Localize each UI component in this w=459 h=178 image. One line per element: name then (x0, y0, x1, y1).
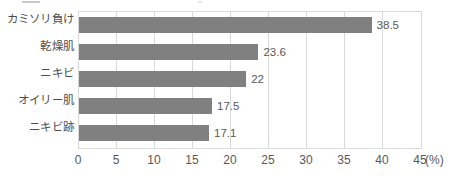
x-tick-label: 10 (147, 152, 160, 168)
bar[interactable] (79, 98, 212, 114)
category-label: ニキビ跡 (0, 119, 74, 135)
x-tick-label: 40 (375, 152, 388, 168)
bar[interactable] (79, 44, 258, 60)
x-tick-label: 20 (223, 152, 236, 168)
top-edge-artifact-secondary (198, 1, 202, 3)
plot-area: 38.5 23.6 22 17.5 17.1 (78, 11, 422, 149)
bar[interactable] (79, 17, 372, 33)
category-label: 乾燥肌 (0, 38, 74, 54)
bar-value-label: 17.5 (212, 98, 239, 114)
x-tick-label: 30 (299, 152, 312, 168)
x-axis-unit-label: (%) (425, 152, 444, 168)
x-tick-label: 5 (113, 152, 120, 168)
bar-value-label: 17.1 (209, 125, 236, 141)
category-label: ニキビ (0, 65, 74, 81)
bar-value-label: 38.5 (372, 17, 399, 33)
bar-value-label: 23.6 (258, 44, 285, 60)
x-tick-label: 35 (337, 152, 350, 168)
x-tick-label: 15 (185, 152, 198, 168)
category-axis-labels: カミソリ負け 乾燥肌 ニキビ オイリー肌 ニキビ跡 (0, 11, 74, 147)
top-edge-artifact (22, 1, 40, 3)
category-label: カミソリ負け (0, 11, 74, 27)
bar[interactable] (79, 71, 246, 87)
x-tick-label: 0 (75, 152, 82, 168)
value-axis: 0 5 10 15 20 25 30 35 40 45 (%) (78, 148, 420, 172)
bar[interactable] (79, 125, 209, 141)
category-label: オイリー肌 (0, 92, 74, 108)
x-tick-label: 25 (261, 152, 274, 168)
bar-chart: カミソリ負け 乾燥肌 ニキビ オイリー肌 ニキビ跡 38.5 23.6 22 1… (0, 0, 459, 178)
bar-value-label: 22 (246, 71, 264, 87)
